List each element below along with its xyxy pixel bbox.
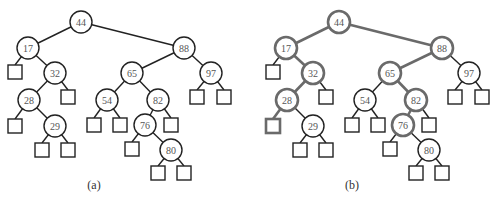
node-label: 88 [437,43,447,54]
tree-node-28: 28 [276,89,298,111]
leaf-node [61,143,75,157]
tree-node-88: 88 [173,37,195,59]
leaf-node [164,118,178,132]
leaf-node [383,142,397,156]
tree-panel-a: 441732282988655482768097(a) [8,11,231,192]
tree-node-97: 97 [200,62,222,84]
leaf-node [190,90,204,104]
leaf-node [217,90,231,104]
node-label: 32 [50,68,60,79]
tree-node-82: 82 [405,89,427,111]
node-label: 28 [24,95,34,106]
leaf-node [435,166,449,180]
node-label: 80 [166,145,176,156]
leaf-node [8,65,22,79]
tree-panel-b: 441732282988655482768097(b) [266,11,489,192]
tree-node-32: 32 [302,62,324,84]
node-label: 44 [76,17,86,28]
panel-caption: (a) [87,178,100,192]
leaf-node [113,118,127,132]
leaf-node [266,119,280,133]
node-label: 17 [23,43,33,54]
leaf-node [61,90,75,104]
node-label: 76 [398,120,408,131]
tree-node-88: 88 [431,37,453,59]
tree-node-76: 76 [392,114,414,136]
panel-caption: (b) [345,178,359,192]
tree-node-82: 82 [147,89,169,111]
node-label: 82 [411,95,421,106]
tree-node-28: 28 [18,89,40,111]
node-label: 88 [179,43,189,54]
tree-node-54: 54 [96,89,118,111]
node-label: 97 [206,68,216,79]
leaf-node [8,119,22,133]
tree-node-44: 44 [328,11,350,33]
tree-node-76: 76 [134,114,156,136]
leaf-node [125,142,139,156]
tree-node-17: 17 [17,37,39,59]
leaf-node [319,90,333,104]
leaf-node [293,143,307,157]
tree-node-80: 80 [418,139,440,161]
leaf-node [266,65,280,79]
edge-44-88 [339,22,442,48]
leaf-node [177,166,191,180]
node-label: 65 [385,68,395,79]
leaf-node [371,118,385,132]
edge-44-88 [81,22,184,48]
bst-diagram: 441732282988655482768097(a)4417322829886… [0,0,500,199]
leaf-node [448,90,462,104]
node-label: 17 [281,43,291,54]
leaf-node [345,118,359,132]
leaf-node [409,166,423,180]
tree-node-32: 32 [44,62,66,84]
node-label: 80 [424,145,434,156]
node-label: 29 [50,121,60,132]
leaf-node [151,166,165,180]
leaf-node [35,143,49,157]
node-label: 32 [308,68,318,79]
node-label: 76 [140,120,150,131]
leaf-node [87,118,101,132]
node-label: 54 [360,95,370,106]
tree-node-65: 65 [379,62,401,84]
leaf-node [319,143,333,157]
tree-node-29: 29 [44,115,66,137]
node-label: 65 [127,68,137,79]
leaf-node [422,118,436,132]
tree-node-65: 65 [121,62,143,84]
node-label: 28 [282,95,292,106]
tree-node-29: 29 [302,115,324,137]
tree-node-17: 17 [275,37,297,59]
node-label: 29 [308,121,318,132]
node-label: 97 [464,68,474,79]
tree-node-97: 97 [458,62,480,84]
tree-node-44: 44 [70,11,92,33]
tree-node-80: 80 [160,139,182,161]
tree-node-54: 54 [354,89,376,111]
node-label: 44 [334,17,344,28]
node-label: 54 [102,95,112,106]
leaf-node [475,90,489,104]
node-label: 82 [153,95,163,106]
